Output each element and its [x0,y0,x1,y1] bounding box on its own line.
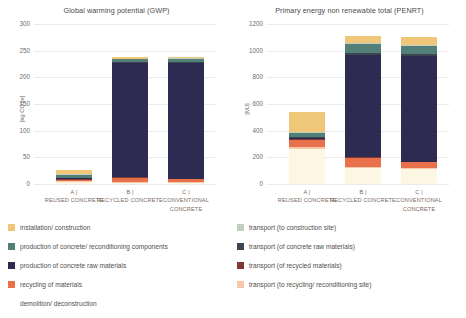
bar-segment [289,140,325,147]
legend-label: transport (to construction site) [249,224,336,231]
gridline [34,51,216,52]
legend: installation/ constructionproduction of … [0,218,466,318]
bar [112,57,148,184]
legend-label: installation/ construction [20,224,90,231]
legend-swatch [8,300,15,307]
legend-label: recycling of materials [20,281,82,288]
bar-segment [345,158,381,167]
chart-title: Primary energy non renewable total (PENR… [233,6,466,15]
bar-segment [112,63,148,177]
legend-swatch [237,224,244,231]
y-axis-label: [MJ] [244,103,250,114]
y-axis-tick: 0 [259,181,263,187]
legend-swatch [237,262,244,269]
bar-segment [112,183,148,184]
y-axis-tick: 250 [19,48,30,54]
gridline [267,24,449,25]
legend-swatch [8,224,15,231]
x-axis-tick-label: C |CONVENTIONAL CONCRETE [146,188,226,213]
bar-segment [401,46,437,55]
bar-segment [401,169,437,184]
legend-swatch [8,243,15,250]
bar-segment [289,149,325,184]
y-axis-tick: 200 [252,154,263,160]
legend-item[interactable]: transport (of recycled materials) [233,256,466,275]
charts-container: Global warming potential (GWP) [kg CO2e]… [0,0,466,218]
y-axis-tick: 50 [23,154,30,160]
legend-item[interactable]: transport (of concrete raw materials) [233,237,466,256]
y-axis-tick: 600 [252,101,263,107]
gridline [34,184,216,185]
legend-swatch [8,281,15,288]
legend-item[interactable]: transport (to construction site) [233,218,466,237]
y-axis-tick: 300 [19,21,30,27]
legend-label: production of concrete/ reconditioning c… [20,243,168,250]
bar [168,57,204,184]
gridline [267,184,449,185]
legend-column-right: transport (to construction site)transpor… [233,218,466,294]
legend-label: transport (of concrete raw materials) [249,243,355,250]
legend-item[interactable]: recycling of materials [4,275,237,294]
legend-item[interactable]: transport (to recycling/ reconditioning … [233,275,466,294]
y-axis-tick: 200 [19,74,30,80]
y-axis-tick: 800 [252,74,263,80]
y-axis-tick: 400 [252,128,263,134]
plot-area: 050100150200250300A |REUSED CONCRETEB |R… [34,24,216,184]
legend-item[interactable]: installation/ construction [4,218,237,237]
bar-segment [289,112,325,132]
chart-title: Global warming potential (GWP) [0,6,233,15]
bar-segment [345,168,381,184]
plot-area: 020040060080010001200A |REUSED CONCRETEB… [267,24,449,184]
bar-segment [168,183,204,184]
bar [345,36,381,184]
y-axis-tick: 100 [19,128,30,134]
legend-swatch [8,262,15,269]
bar-segment [168,63,204,179]
bar-segment [345,36,381,43]
bar-segment [345,44,381,53]
legend-column-left: installation/ constructionproduction of … [4,218,237,313]
legend-label: transport (of recycled materials) [249,262,342,269]
gridline [34,24,216,25]
legend-item[interactable]: production of concrete/ reconditioning c… [4,237,237,256]
legend-label: demolition/ deconstruction [20,300,97,307]
y-axis-tick: 1200 [249,21,263,27]
y-axis-tick: 150 [19,101,30,107]
bar-segment [401,56,437,163]
bar-segment [56,182,92,184]
x-axis-tick-label: C |CONVENTIONAL CONCRETE [379,188,459,213]
bar [401,37,437,184]
legend-item[interactable]: demolition/ deconstruction [4,294,237,313]
legend-label: transport (to recycling/ reconditioning … [249,281,371,288]
bar-segment [401,37,437,44]
bar [56,170,92,184]
bar [289,112,325,184]
chart-panel-gwp: Global warming potential (GWP) [kg CO2e]… [0,0,233,218]
chart-panel-penrt: Primary energy non renewable total (PENR… [233,0,466,218]
legend-label: production of concrete raw materials [20,262,126,269]
legend-swatch [237,281,244,288]
y-axis-tick: 0 [26,181,30,187]
legend-swatch [237,243,244,250]
y-axis-tick: 1000 [249,48,263,54]
legend-item[interactable]: production of concrete raw materials [4,256,237,275]
bar-segment [345,55,381,158]
